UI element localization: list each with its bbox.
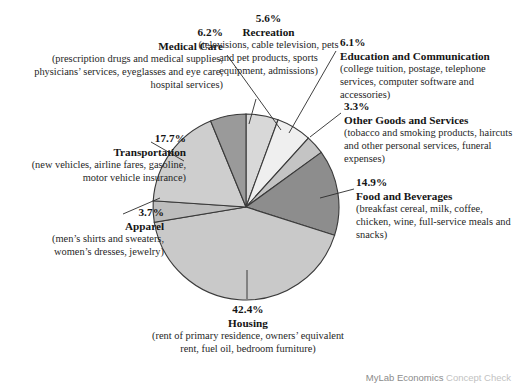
callout-detail: (tobacco and smoking products, haircuts …: [344, 127, 520, 165]
footer-attribution: MyLab Economics Concept Check: [366, 372, 511, 383]
callout-percent: 6.2%: [18, 26, 223, 40]
leader-line-other-goods: [310, 113, 341, 137]
callout-apparel: 3.7% Apparel (men’s shirts and sweaters,…: [12, 206, 164, 259]
callout-category: Apparel: [12, 220, 164, 234]
callout-transportation: 17.7% Transportation (new vehicles, airl…: [14, 132, 186, 185]
callout-detail: (prescription drugs and medical supplies…: [18, 53, 223, 91]
callout-food-and-beverages: 14.9% Food and Beverages (breakfast cere…: [356, 176, 520, 241]
pie-chart-figure: 6.2% Medical Care (prescription drugs an…: [0, 0, 523, 391]
callout-recreation: 5.6% Recreation (televisions, cable tele…: [196, 12, 341, 77]
callout-detail: (televisions, cable television, pets and…: [196, 39, 341, 77]
callout-detail: (new vehicles, airline fares, gasoline, …: [14, 159, 186, 184]
callout-percent: 6.1%: [340, 36, 520, 50]
callout-percent: 3.7%: [12, 206, 164, 220]
callout-detail: (men’s shirts and sweaters, women’s dres…: [12, 233, 164, 258]
callout-detail: (rent of primary residence, owners’ equi…: [152, 330, 344, 355]
callout-category: Housing: [152, 317, 344, 331]
callout-category: Education and Communication: [340, 50, 520, 64]
concept-check-label: Concept Check: [446, 372, 511, 383]
callout-detail: (college tuition, postage, telephone ser…: [340, 63, 520, 101]
callout-percent: 42.4%: [152, 303, 344, 317]
callout-other-goods-and-services: 3.3% Other Goods and Services (tobacco a…: [344, 100, 520, 165]
callout-detail: (breakfast cereal, milk, coffee, chicken…: [356, 203, 520, 241]
callout-category: Food and Beverages: [356, 190, 520, 204]
mylab-brand-label: MyLab Economics: [366, 372, 444, 383]
callout-category: Medical Care: [18, 40, 223, 54]
callout-education-and-communication: 6.1% Education and Communication (colleg…: [340, 36, 520, 101]
callout-percent: 14.9%: [356, 176, 520, 190]
callout-percent: 3.3%: [344, 100, 520, 114]
callout-medical-care: 6.2% Medical Care (prescription drugs an…: [18, 26, 223, 91]
callout-category: Recreation: [196, 26, 341, 40]
callout-category: Transportation: [14, 146, 186, 160]
callout-percent: 17.7%: [14, 132, 186, 146]
callout-housing: 42.4% Housing (rent of primary residence…: [152, 303, 344, 356]
callout-category: Other Goods and Services: [344, 114, 520, 128]
callout-percent: 5.6%: [196, 12, 341, 26]
